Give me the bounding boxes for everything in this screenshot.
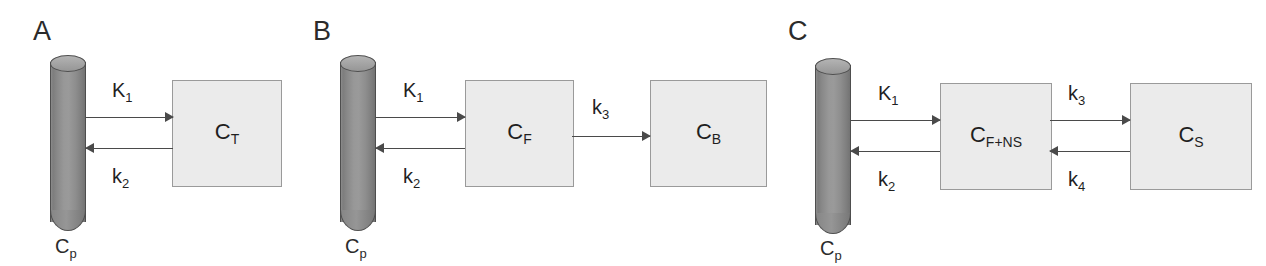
panel-c-compartment-cs: CS xyxy=(1130,83,1252,190)
panel-a-plasma-label: Cp xyxy=(55,236,77,260)
compartment-label-main: C xyxy=(507,119,523,144)
cylinder-top-cap xyxy=(50,55,86,72)
panel-a-rate-k1-label: K1 xyxy=(112,80,133,104)
panel-b-compartment-cf: CF xyxy=(465,80,574,187)
compartment-label: CF+NS xyxy=(970,124,1022,149)
rate-sub: 3 xyxy=(602,107,609,122)
arrow-head-left-icon xyxy=(375,143,384,153)
compartment-label-main: C xyxy=(215,119,231,144)
compartment-label: CT xyxy=(215,121,239,146)
panel-a: A Cp CT K1 k2 xyxy=(0,0,300,266)
compartment-label-sub: B xyxy=(712,131,721,147)
panel-a-letter: A xyxy=(33,18,52,45)
arrow-head-left-icon xyxy=(1049,146,1058,156)
compartment-label-main: C xyxy=(696,119,712,144)
panel-c-letter: C xyxy=(788,18,808,45)
compartment-label: CS xyxy=(1178,124,1203,149)
compartment-label-sub: T xyxy=(231,131,240,147)
arrow-shaft xyxy=(851,120,940,121)
panel-b-rate-k2-label: k2 xyxy=(403,166,420,190)
panel-a-plasma-cylinder xyxy=(50,55,86,231)
cylinder-top-cap xyxy=(815,58,851,75)
arrow-shaft xyxy=(86,148,173,149)
plasma-label-main: C xyxy=(345,235,359,257)
panel-b-letter: B xyxy=(313,18,332,45)
panel-a-rate-k2-label: k2 xyxy=(112,166,129,190)
panel-a-compartment-ct: CT xyxy=(172,80,282,187)
panel-b-plasma-cylinder xyxy=(340,55,376,231)
panel-b-plasma-label: Cp xyxy=(345,236,367,260)
panel-b-arrow-k2 xyxy=(376,143,465,154)
panel-c-rate-k1-label: K1 xyxy=(878,83,899,107)
panel-b-rate-k1-label: K1 xyxy=(403,80,424,104)
cylinder-body xyxy=(340,62,376,222)
plasma-label-sub: p xyxy=(359,246,366,261)
arrow-head-left-icon xyxy=(85,143,94,153)
panel-b-compartment-cb: CB xyxy=(650,80,767,187)
arrow-shaft xyxy=(851,151,940,152)
arrow-head-right-icon xyxy=(1122,115,1131,125)
cylinder-body xyxy=(815,65,851,225)
panel-c-arrow-k4 xyxy=(1050,146,1130,157)
rate-main: k xyxy=(1068,82,1078,104)
arrow-shaft xyxy=(572,136,650,137)
rate-sub: 2 xyxy=(888,179,895,194)
cylinder-bottom-cap xyxy=(50,210,86,231)
panel-b-arrow-k3 xyxy=(572,131,650,142)
rate-main: K xyxy=(403,79,416,101)
plasma-label-main: C xyxy=(820,237,834,259)
rate-sub: 2 xyxy=(413,176,420,191)
compartment-label: CF xyxy=(507,121,531,146)
panel-b: B Cp CF CB K1 xyxy=(300,0,780,266)
rate-main: k xyxy=(592,96,602,118)
panel-c-compartment-cfns: CF+NS xyxy=(940,83,1052,190)
panel-c-rate-k2-label: k2 xyxy=(878,169,895,193)
arrow-shaft xyxy=(86,117,173,118)
cylinder-bottom-cap xyxy=(340,210,376,231)
plasma-label-main: C xyxy=(55,235,69,257)
compartment-label-sub: F+NS xyxy=(986,134,1022,150)
rate-main: K xyxy=(878,82,891,104)
cylinder-top-cap xyxy=(340,55,376,72)
compartment-label-main: C xyxy=(970,122,986,147)
panel-c-rate-k4-label: k4 xyxy=(1068,169,1085,193)
arrow-head-left-icon xyxy=(850,146,859,156)
panel-c: C Cp CF+NS CS K1 xyxy=(780,0,1266,266)
arrow-head-right-icon xyxy=(457,112,466,122)
compartment-label-main: C xyxy=(1178,122,1194,147)
panel-c-arrow-k2 xyxy=(851,146,940,157)
rate-main: k xyxy=(403,165,413,187)
panel-a-arrow-k1 xyxy=(86,112,173,123)
rate-sub: 1 xyxy=(891,93,898,108)
panel-c-rate-k3-label: k3 xyxy=(1068,83,1085,107)
cylinder-body xyxy=(50,62,86,222)
panel-c-arrow-k3 xyxy=(1050,115,1130,126)
arrow-head-right-icon xyxy=(642,131,651,141)
arrow-shaft xyxy=(1050,120,1130,121)
rate-sub: 1 xyxy=(125,90,132,105)
panel-c-arrow-k1 xyxy=(851,115,940,126)
rate-main: k xyxy=(112,165,122,187)
cylinder-bottom-cap xyxy=(815,213,851,234)
rate-main: k xyxy=(1068,168,1078,190)
compartment-label: CB xyxy=(696,121,721,146)
rate-sub: 2 xyxy=(122,176,129,191)
plasma-label-sub: p xyxy=(834,248,841,263)
arrow-shaft xyxy=(376,117,465,118)
panel-b-rate-k3-label: k3 xyxy=(592,97,609,121)
arrow-head-right-icon xyxy=(165,112,174,122)
panel-c-plasma-label: Cp xyxy=(820,238,842,262)
panel-c-plasma-cylinder xyxy=(815,58,851,234)
rate-main: K xyxy=(112,79,125,101)
rate-sub: 3 xyxy=(1078,93,1085,108)
rate-sub: 1 xyxy=(416,90,423,105)
arrow-shaft xyxy=(1050,151,1130,152)
compartment-label-sub: S xyxy=(1194,134,1203,150)
panel-b-arrow-k1 xyxy=(376,112,465,123)
rate-main: k xyxy=(878,168,888,190)
compartmental-model-figure: A Cp CT K1 k2 B xyxy=(0,0,1266,266)
rate-sub: 4 xyxy=(1078,179,1085,194)
panel-a-arrow-k2 xyxy=(86,143,173,154)
arrow-shaft xyxy=(376,148,465,149)
plasma-label-sub: p xyxy=(69,246,76,261)
